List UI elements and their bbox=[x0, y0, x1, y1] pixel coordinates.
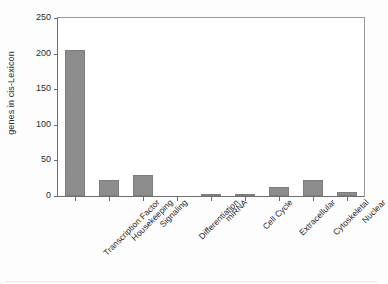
y-axis-tick-labels: 050100150200250 bbox=[14, 0, 54, 200]
y-axis-tick-label: 50 bbox=[41, 155, 51, 164]
y-axis-tick-mark bbox=[54, 125, 58, 126]
y-axis-tick-label: 250 bbox=[36, 13, 51, 22]
y-axis-tick-label: 200 bbox=[36, 48, 51, 57]
y-axis-tick-label: 150 bbox=[36, 84, 51, 93]
scan-artifact-line bbox=[5, 281, 377, 282]
bar bbox=[303, 180, 323, 196]
y-axis-tick-mark bbox=[54, 18, 58, 19]
y-axis-tick-mark bbox=[54, 89, 58, 90]
y-axis-tick-mark bbox=[54, 196, 58, 197]
x-axis-tick-label: Cell Cycle bbox=[261, 198, 294, 231]
x-axis-tick-label: Transcription Factor bbox=[102, 198, 162, 258]
bar bbox=[337, 192, 357, 196]
y-axis-tick-label: 100 bbox=[36, 119, 51, 128]
bar bbox=[133, 175, 153, 196]
plot-area bbox=[57, 17, 365, 197]
y-axis-tick-label: 0 bbox=[46, 191, 51, 200]
bar bbox=[65, 50, 85, 196]
x-axis-tick-label: Extracellular bbox=[298, 198, 337, 237]
bar bbox=[235, 194, 255, 196]
y-axis-tick-mark bbox=[54, 54, 58, 55]
x-axis-tick-labels: Transcription FactorHousekeepingSignalin… bbox=[57, 198, 365, 284]
bar bbox=[269, 187, 289, 196]
bar bbox=[99, 180, 119, 196]
y-axis-tick-mark bbox=[54, 160, 58, 161]
bar bbox=[201, 194, 221, 196]
bar-series bbox=[58, 18, 364, 196]
